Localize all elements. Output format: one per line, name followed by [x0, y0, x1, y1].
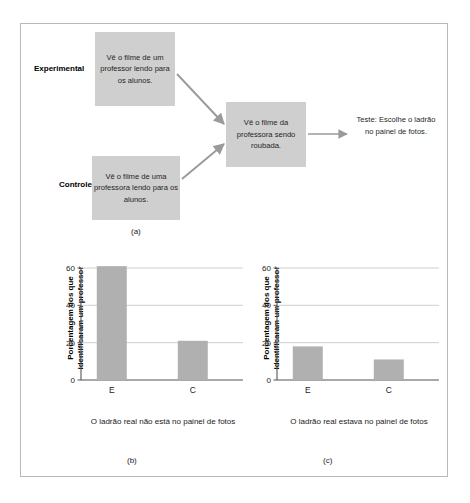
- group-label-control: Controle: [59, 180, 92, 189]
- chart-b-y-tick-label: 20: [66, 339, 75, 348]
- chart-b-bar: [97, 266, 127, 380]
- chart-b-category-label: C: [190, 385, 196, 395]
- chart-b-bar: [178, 341, 208, 380]
- chart-b-y-tick-label: 60: [66, 264, 75, 273]
- chart-c-y-tick-label: 20: [262, 339, 271, 348]
- chart-c-plot: 0204060EC: [239, 260, 444, 415]
- chart-c-category-label: C: [386, 385, 392, 395]
- chart-c-y-tick-label: 60: [262, 264, 271, 273]
- chart-c-category-label: E: [305, 385, 311, 395]
- chart-b-plot: 0204060EC: [43, 260, 248, 415]
- chart-b-y-tick-label: 40: [66, 301, 75, 310]
- panel-letter-a: (a): [131, 227, 141, 236]
- chart-b-category-label: E: [109, 385, 115, 395]
- flow-box-theft-film: Vê o filme da professora sendo roubada.: [226, 102, 306, 167]
- flow-test-text: Teste: Escolhe o ladrão no painel de fot…: [353, 114, 439, 137]
- chart-b-x-axis-caption: O ladrão real não está no painel de foto…: [83, 416, 243, 427]
- panel-letter-c: (c): [323, 456, 332, 465]
- chart-c-x-axis-caption: O ladrão real estava no painel de fotos: [279, 416, 439, 427]
- panel-a-flow-diagram: Experimental Controle Vê o filme de um p…: [21, 24, 449, 246]
- panel-letter-b: (b): [127, 456, 137, 465]
- chart-c-bar: [374, 359, 404, 380]
- chart-c-y-tick-label: 0: [267, 376, 272, 385]
- chart-c-y-tick-label: 40: [262, 301, 271, 310]
- chart-b-y-tick-label: 0: [71, 376, 76, 385]
- flow-box-experimental-stimulus: Vê o filme de um professor lendo para os…: [95, 32, 175, 106]
- panel-b-bar-chart: Porcentagem dos que identificaram um pro…: [43, 260, 248, 478]
- flow-box-control-stimulus: Vê o filme de uma professora lendo para …: [92, 156, 180, 220]
- panel-c-bar-chart: Porcentagem dos que identificaram um pro…: [239, 260, 444, 478]
- group-label-experimental: Experimental: [34, 64, 84, 73]
- figure-frame: Experimental Controle Vê o filme de um p…: [20, 23, 448, 477]
- chart-c-bar: [293, 346, 323, 380]
